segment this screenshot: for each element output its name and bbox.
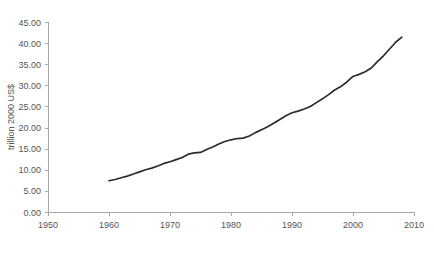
x-tick-label: 1950 <box>38 220 58 230</box>
y-axis-tick-marks <box>45 23 48 213</box>
chart-container: 0.005.0010.0015.0020.0025.0030.0035.0040… <box>0 0 434 254</box>
data-series-line <box>109 37 402 181</box>
y-tick-label: 0.00 <box>23 208 41 218</box>
x-tick-label: 1960 <box>99 220 119 230</box>
y-tick-label: 35.00 <box>18 60 41 70</box>
x-axis-tick-labels: 1950196019701980199020002010 <box>38 220 424 230</box>
y-tick-label: 45.00 <box>18 18 41 28</box>
y-tick-label: 10.00 <box>18 165 41 175</box>
y-tick-label: 40.00 <box>18 39 41 49</box>
y-axis-title: trillion 2000 US$ <box>6 84 16 150</box>
line-chart: 0.005.0010.0015.0020.0025.0030.0035.0040… <box>0 0 434 254</box>
x-tick-label: 2010 <box>404 220 424 230</box>
y-tick-label: 25.00 <box>18 102 41 112</box>
x-tick-label: 1980 <box>221 220 241 230</box>
x-tick-label: 2000 <box>343 220 363 230</box>
y-tick-label: 30.00 <box>18 81 41 91</box>
y-tick-label: 5.00 <box>23 186 41 196</box>
y-axis-tick-labels: 0.005.0010.0015.0020.0025.0030.0035.0040… <box>18 18 41 218</box>
x-tick-label: 1990 <box>282 220 302 230</box>
x-tick-label: 1970 <box>160 220 180 230</box>
y-tick-label: 20.00 <box>18 123 41 133</box>
y-tick-label: 15.00 <box>18 144 41 154</box>
